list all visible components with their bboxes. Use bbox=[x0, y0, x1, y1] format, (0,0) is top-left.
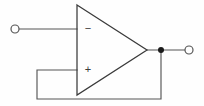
schematic-canvas: − + bbox=[0, 0, 204, 106]
feedback-loop-wire bbox=[37, 50, 161, 99]
circuit-schematic: − + bbox=[0, 0, 204, 106]
output-node-junction-dot bbox=[158, 47, 164, 53]
input-terminal-icon[interactable] bbox=[11, 25, 19, 33]
output-terminal-icon[interactable] bbox=[185, 46, 193, 54]
noninverting-input-symbol: + bbox=[85, 63, 91, 75]
opamp-triangle-icon bbox=[77, 5, 147, 95]
inverting-input-symbol: − bbox=[85, 22, 91, 34]
